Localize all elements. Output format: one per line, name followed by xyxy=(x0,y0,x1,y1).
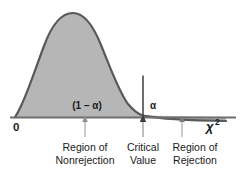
pointer-region-of-nonrejection xyxy=(82,116,88,138)
caption-line-2: Nonrejection xyxy=(56,154,115,166)
chi-symbol: χ xyxy=(204,119,214,134)
caption-line-1: Region of xyxy=(173,141,218,153)
origin-tick-label: 0 xyxy=(13,121,19,133)
chi-square-distribution-figure: 0 χ 2 (1 – α) α Region of Nonrejection C… xyxy=(0,0,243,177)
caption-line-1: Critical xyxy=(127,141,159,153)
caption-region-of-nonrejection: Region of Nonrejection xyxy=(56,141,115,166)
caption-line-2: Value xyxy=(130,154,156,166)
caption-line-1: Region of xyxy=(63,141,108,153)
x-axis-label: χ 2 xyxy=(204,117,220,134)
chi-exponent: 2 xyxy=(215,117,220,127)
caption-line-2: Rejection xyxy=(173,154,217,166)
alpha-label: α xyxy=(150,100,157,111)
caption-region-of-rejection: Region of Rejection xyxy=(173,141,218,166)
chart-svg: 0 χ 2 (1 – α) α Region of Nonrejection C… xyxy=(0,0,243,177)
caption-critical-value: Critical Value xyxy=(127,141,159,166)
one-minus-alpha-label: (1 – α) xyxy=(72,100,102,111)
